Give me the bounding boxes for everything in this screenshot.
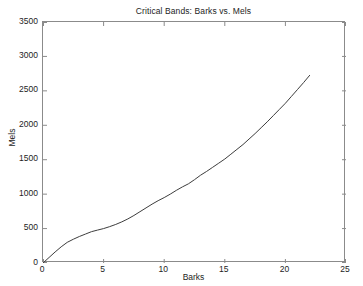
y-axis-label: Mels <box>8 118 17 158</box>
x-axis-label: Barks <box>42 273 345 282</box>
chart-figure: Critical Bands: Barks vs. Mels 050010001… <box>0 0 363 286</box>
x-axis-tick-labels: 0510152025 <box>0 0 363 286</box>
